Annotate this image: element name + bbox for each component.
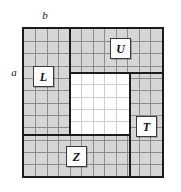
board-grid <box>24 29 162 176</box>
cleared-line-h-3 <box>70 109 130 110</box>
tile-z[interactable]: Z <box>66 146 87 167</box>
tile-z-label: Z <box>73 151 80 163</box>
cleared-line-v-3 <box>104 72 105 134</box>
cleared-line-v-2 <box>93 72 94 134</box>
thick-divider-v-right <box>129 72 131 176</box>
tile-l[interactable]: L <box>33 66 54 87</box>
puzzle-figure: b a <box>0 0 181 192</box>
cleared-line-h-2 <box>70 97 130 98</box>
cleared-line-h-1 <box>70 84 130 85</box>
thick-divider-v-top <box>69 29 71 74</box>
cleared-region[interactable] <box>70 72 130 134</box>
axis-label-b: b <box>38 10 52 21</box>
grid-line-h-11 <box>24 164 162 165</box>
tile-t-label: T <box>143 121 150 133</box>
cleared-line-v-1 <box>81 72 82 134</box>
puzzle-board[interactable] <box>22 27 164 178</box>
grid-line-h-2 <box>24 53 162 54</box>
thick-divider-h-lower <box>24 134 131 136</box>
grid-line-h-10 <box>24 152 162 153</box>
tile-u[interactable]: U <box>110 38 131 59</box>
grid-line-h-1 <box>24 41 162 42</box>
grid-line-h-9 <box>24 140 162 141</box>
cleared-line-h-4 <box>70 121 130 122</box>
axis-label-a: a <box>7 67 21 78</box>
thick-divider-v-mid <box>69 72 71 136</box>
tile-t[interactable]: T <box>136 116 157 137</box>
thick-divider-h-upper <box>69 72 163 74</box>
tile-l-label: L <box>40 71 47 83</box>
cleared-line-v-4 <box>116 72 117 134</box>
tile-u-label: U <box>116 43 125 55</box>
